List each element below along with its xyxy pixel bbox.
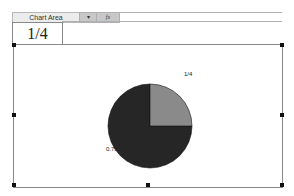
resize-handle-bottom-left[interactable]: [12, 183, 16, 187]
resize-handle-top-left[interactable]: [12, 43, 16, 47]
chart-area[interactable]: 1/4 0.75: [13, 44, 283, 188]
resize-handle-middle-left[interactable]: [12, 113, 16, 117]
resize-handle-bottom-middle[interactable]: [146, 183, 150, 187]
resize-handle-top-right[interactable]: [280, 43, 284, 47]
resize-handle-bottom-right[interactable]: [280, 183, 284, 187]
pie-chart: [14, 45, 282, 187]
data-label-three-quarters: 0.75: [106, 146, 118, 152]
resize-handle-middle-right[interactable]: [280, 113, 284, 117]
pie-slice-quarter[interactable]: [150, 84, 192, 126]
formula-input[interactable]: [119, 12, 282, 13]
cell-value-box[interactable]: 1/4: [12, 22, 63, 45]
formula-divider: [62, 21, 282, 22]
data-label-quarter: 1/4: [184, 71, 192, 77]
